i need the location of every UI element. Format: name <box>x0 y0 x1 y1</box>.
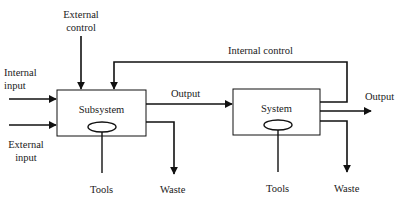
output-right-label: Output <box>365 90 394 103</box>
external-control-label-line1: External <box>57 8 105 21</box>
waste-left-label: Waste <box>160 183 185 196</box>
internal-control-label: Internal control <box>228 44 293 57</box>
internal-input-label: Internal input <box>4 66 44 92</box>
external-control-label-line2: control <box>57 21 105 34</box>
external-input-label-line1: External <box>4 138 48 151</box>
subsystem-waste-arrow <box>146 122 174 174</box>
tools-right-label: Tools <box>266 182 289 195</box>
external-input-label-line2: input <box>4 151 48 164</box>
internal-input-label-line1: Internal <box>4 66 44 79</box>
waste-right-label: Waste <box>334 182 359 195</box>
tools-left-label: Tools <box>90 183 113 196</box>
subsystem-tool-icon <box>88 122 116 132</box>
external-control-label: External control <box>57 8 105 34</box>
subsystem-label: Subsystem <box>57 103 146 116</box>
system-label: System <box>233 102 320 115</box>
internal-input-label-line2: input <box>4 79 44 92</box>
internal-control-loop <box>114 62 347 102</box>
system-waste-arrow <box>320 121 347 172</box>
output-middle-label: Output <box>171 87 200 100</box>
system-tool-icon <box>264 120 292 130</box>
external-input-label: External input <box>4 138 48 164</box>
